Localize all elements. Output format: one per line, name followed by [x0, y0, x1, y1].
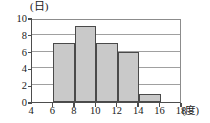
x-axis-unit-label: (度) [182, 106, 199, 117]
bar [53, 43, 74, 102]
x-axis-tick-mark [73, 103, 74, 107]
bar [75, 26, 96, 102]
x-axis-tick-label: 10 [85, 106, 105, 117]
x-axis-tick-mark [116, 103, 117, 107]
bar [118, 52, 139, 102]
plot-area [31, 19, 181, 103]
bar [139, 94, 160, 102]
y-axis-tick-label: 6 [5, 48, 27, 59]
y-axis-tick-mark [28, 35, 32, 36]
x-axis-tick-label: 16 [150, 106, 170, 117]
y-axis-tick-mark [28, 69, 32, 70]
gridline [32, 34, 180, 35]
y-axis-tick-label: 8 [5, 31, 27, 42]
x-axis-tick-mark [137, 103, 138, 107]
y-axis-tick-mark [28, 102, 32, 103]
y-axis-tick-label: 2 [5, 81, 27, 92]
y-axis-tick-mark [28, 52, 32, 53]
x-axis-tick-mark [95, 103, 96, 107]
y-axis-tick-label: 10 [5, 14, 27, 25]
y-axis-unit-label: (日) [30, 1, 48, 12]
histogram-chart: (日) 0246810 4681012141618 (度) [0, 0, 210, 123]
y-axis-tick-mark [28, 86, 32, 87]
bar [96, 43, 117, 102]
x-axis-tick-label: 12 [107, 106, 127, 117]
x-axis-tick-mark [159, 103, 160, 107]
x-axis-tick-label: 4 [21, 106, 41, 117]
y-axis-tick-label: 4 [5, 64, 27, 75]
x-axis-tick-mark [52, 103, 53, 107]
y-axis-tick-mark [28, 18, 32, 19]
x-axis-tick-label: 8 [64, 106, 84, 117]
x-axis-tick-label: 14 [128, 106, 148, 117]
x-axis-tick-label: 6 [42, 106, 62, 117]
